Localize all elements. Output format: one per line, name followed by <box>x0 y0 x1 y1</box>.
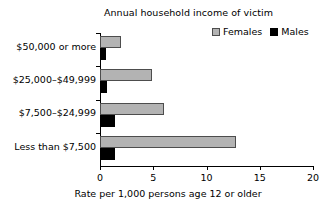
bar-females-25000-49999 <box>100 69 152 81</box>
y-label-income-50000-or-more: $50,000 or more <box>2 41 96 52</box>
x-axis-tick-label: 5 <box>150 172 156 183</box>
x-axis-tick-label: 0 <box>97 172 103 183</box>
y-axis-tick <box>96 133 100 134</box>
x-axis-tick <box>153 166 154 170</box>
bar-females-7500-24999 <box>100 103 164 115</box>
y-axis-tick <box>96 100 100 101</box>
y-axis-category-labels: $50,000 or more $25,000–$49,999 $7,500–$… <box>0 33 96 166</box>
bar-males-less-than-7500 <box>100 148 115 160</box>
x-axis-tick <box>260 166 261 170</box>
bar-group-25000-49999 <box>100 66 313 99</box>
bar-chart: Annual household income of victim Female… <box>0 0 336 209</box>
bar-females-50000-or-more <box>100 36 121 48</box>
bar-males-7500-24999 <box>100 115 115 127</box>
bar-males-25000-49999 <box>100 81 107 93</box>
x-axis-tick <box>313 166 314 170</box>
bar-females-less-than-7500 <box>100 136 236 148</box>
x-axis-tick <box>207 166 208 170</box>
bar-group-50000-or-more <box>100 33 313 66</box>
bar-males-50000-or-more <box>100 48 106 60</box>
x-axis-tick-label: 15 <box>254 172 266 183</box>
y-axis-tick <box>96 33 100 34</box>
y-label-income-less-than-7500: Less than $7,500 <box>2 141 96 152</box>
chart-title: Annual household income of victim <box>104 7 334 18</box>
x-axis-title: Rate per 1,000 persons age 12 or older <box>0 188 336 199</box>
y-label-income-7500-24999: $7,500–$24,999 <box>2 107 96 118</box>
y-axis-tick <box>96 66 100 67</box>
bar-group-less-than-7500 <box>100 133 313 166</box>
x-axis-tick-label: 10 <box>200 172 212 183</box>
x-axis-tick-label: 20 <box>307 172 319 183</box>
y-label-income-25000-49999: $25,000–$49,999 <box>2 74 96 85</box>
plot-area: 05101520 <box>100 33 313 166</box>
bar-group-7500-24999 <box>100 100 313 133</box>
x-axis-tick <box>100 166 101 170</box>
